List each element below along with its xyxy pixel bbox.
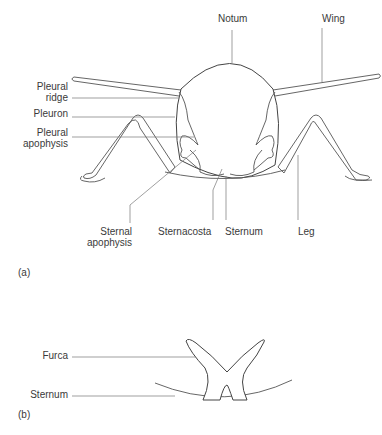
label-notum: Notum (218, 13, 247, 24)
label-sternal-apophysis-line1: Sternal (80, 226, 132, 237)
label-sternacosta: Sternacosta (158, 226, 211, 237)
label-sternum-b: Sternum (12, 389, 68, 400)
panel-label-b: (b) (18, 409, 30, 420)
right-leg (278, 115, 370, 180)
label-pleural-apophysis: Pleural apophysis (12, 127, 68, 149)
label-pleural-apophysis-line1: Pleural (12, 127, 68, 138)
right-wing (273, 74, 381, 96)
thorax-diagram (0, 0, 382, 435)
label-sternum-a: Sternum (225, 226, 263, 237)
label-sternal-apophysis-line2: apophysis (80, 237, 132, 248)
label-pleural-ridge-line1: Pleural (12, 81, 68, 92)
furca (186, 339, 264, 400)
left-leg (83, 115, 175, 179)
left-wing (72, 77, 181, 96)
label-furca: Furca (12, 350, 68, 361)
label-pleural-ridge-line2: ridge (12, 92, 68, 103)
label-wing: Wing (322, 13, 345, 24)
label-pleuron: Pleuron (12, 108, 68, 119)
label-leg: Leg (298, 226, 315, 237)
label-pleural-apophysis-line2: apophysis (12, 138, 68, 149)
label-sternal-apophysis: Sternal apophysis (80, 226, 132, 248)
label-pleural-ridge: Pleural ridge (12, 81, 68, 103)
panel-label-a: (a) (18, 267, 30, 278)
thorax-body (176, 64, 278, 179)
